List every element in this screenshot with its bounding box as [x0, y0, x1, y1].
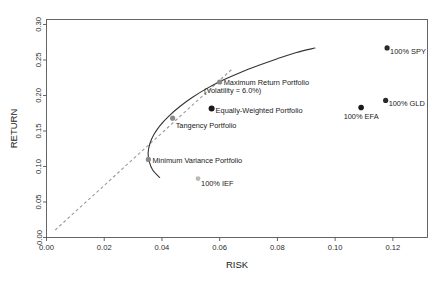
figure-caption-partial	[8, 272, 198, 280]
marker-icon	[384, 45, 389, 50]
data-point-label: 100% EFA	[344, 112, 379, 121]
x-tick-label-3: 0.06	[212, 243, 227, 252]
x-tick-label-6: 0.12	[385, 243, 400, 252]
data-point-100-efa[interactable]: 100% EFA	[344, 105, 379, 121]
x-axis-title: RISK	[226, 259, 249, 270]
x-tick-label-5: 0.10	[328, 243, 343, 252]
chart-canvas: 0.000.020.040.060.080.100.120.000.050.10…	[0, 0, 435, 282]
plot-frame	[47, 20, 428, 238]
data-point-100-ief[interactable]: 100% IEF	[196, 176, 234, 187]
y-tick-label-2: 0.10	[35, 159, 44, 174]
marker-icon	[209, 106, 215, 112]
marker-icon	[170, 116, 175, 121]
y-axis-title: RETURN	[8, 109, 19, 149]
efficient-frontier-figure: 0.000.020.040.060.080.100.120.000.050.10…	[0, 0, 435, 282]
y-tick-label-5: 0.25	[35, 53, 44, 68]
data-point-label: 100% GLD	[389, 99, 425, 108]
x-tick-label-4: 0.08	[270, 243, 285, 252]
marker-icon	[383, 98, 388, 103]
y-tick-label-0: 0.00	[35, 230, 44, 245]
x-tick-label-1: 0.02	[97, 243, 112, 252]
marker-icon	[217, 79, 222, 84]
data-point-equally-weighted-portfolio[interactable]: Equally-Weighted Portfolio	[209, 106, 303, 115]
y-tick-label-6: 0.30	[35, 17, 44, 32]
marker-icon	[196, 176, 201, 181]
data-point-100-spy[interactable]: 100% SPY	[384, 45, 425, 56]
data-point-label: Equally-Weighted Portfolio	[216, 106, 303, 115]
max-return-volatility-note: (Volatility = 6.0%)	[204, 86, 261, 95]
y-tick-label-4: 0.20	[35, 88, 44, 103]
data-point-minimum-variance-portfolio[interactable]: Minimum Variance Portfolio	[146, 156, 242, 165]
data-point-label: Minimum Variance Portfolio	[152, 156, 242, 165]
marker-icon	[146, 157, 151, 162]
data-point-tangency-portfolio[interactable]: Tangency Portfolio	[170, 116, 236, 131]
marker-icon	[358, 105, 364, 111]
x-tick-label-2: 0.04	[155, 243, 170, 252]
data-point-label: 100% SPY	[390, 47, 426, 56]
y-tick-label-1: 0.05	[35, 195, 44, 210]
y-tick-label-3: 0.15	[35, 124, 44, 139]
data-point-label: 100% IEF	[201, 179, 234, 188]
data-point-100-gld[interactable]: 100% GLD	[383, 98, 425, 109]
data-point-label: Tangency Portfolio	[176, 121, 237, 130]
